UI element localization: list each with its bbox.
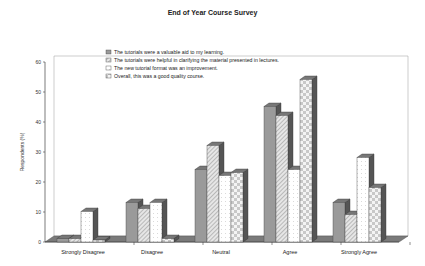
- bar-chart: 0102030405060Respondents (%)Strongly Dis…: [0, 0, 425, 266]
- legend-swatch: [106, 50, 111, 54]
- x-category-label: Disagree: [141, 249, 163, 255]
- y-tick-label: 30: [35, 149, 41, 155]
- y-tick-label: 60: [35, 59, 41, 65]
- x-category-label: Neutral: [212, 249, 230, 255]
- y-tick-label: 20: [35, 179, 41, 185]
- bar: [150, 199, 167, 242]
- bar: [369, 184, 386, 242]
- legend-entry: The tutorials were a valuable aid to my …: [114, 49, 224, 55]
- legend-swatch: [106, 74, 111, 78]
- legend-swatch: [106, 58, 111, 62]
- x-category-label: Strongly Agree: [341, 249, 377, 255]
- y-tick-label: 10: [35, 209, 41, 215]
- bar: [81, 208, 98, 242]
- y-tick-label: 0: [38, 239, 41, 245]
- legend-entry: The tutorials were helpful in clarifying…: [114, 57, 279, 63]
- legend-entry: The new tutorial format was an improveme…: [114, 65, 218, 71]
- x-category-label: Strongly Disagree: [61, 249, 105, 255]
- y-axis-label: Respondents (%): [19, 132, 25, 171]
- x-category-label: Agree: [283, 249, 298, 255]
- y-tick-label: 40: [35, 119, 41, 125]
- bar: [231, 169, 248, 242]
- legend-swatch: [106, 66, 111, 70]
- bar: [300, 76, 317, 242]
- y-tick-label: 50: [35, 89, 41, 95]
- legend-entry: Overall, this was a good quality course.: [114, 73, 204, 79]
